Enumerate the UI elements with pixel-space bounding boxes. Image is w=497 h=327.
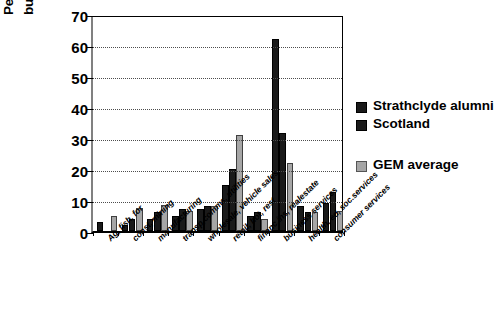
legend-label: Scotland bbox=[373, 116, 496, 132]
chart-legend: Strathclyde alumniScotlandGEM average bbox=[356, 98, 496, 175]
gridline bbox=[93, 47, 342, 48]
gridline bbox=[93, 171, 342, 172]
legend-item: Scotland bbox=[356, 116, 496, 132]
legend-label: Strathclyde alumni bbox=[373, 98, 496, 114]
legend-swatch-icon bbox=[356, 120, 367, 131]
y-axis-title-line-2: businesses bbox=[21, 0, 36, 15]
gridline bbox=[93, 109, 342, 110]
gridline bbox=[93, 78, 342, 79]
y-axis-title: Percentage of all new businesses bbox=[0, 0, 42, 245]
plot-area: 010203040506070 bbox=[60, 16, 345, 236]
y-axis-tick-labels: 010203040506070 bbox=[60, 16, 88, 236]
bar bbox=[97, 222, 104, 231]
legend-label: GEM average bbox=[373, 157, 496, 173]
y-axis-tick-label: 50 bbox=[71, 71, 88, 86]
y-axis-tick-label: 60 bbox=[71, 40, 88, 55]
y-axis-tick bbox=[87, 202, 93, 203]
y-axis-tick bbox=[87, 78, 93, 79]
y-axis-tick-label: 10 bbox=[71, 195, 88, 210]
x-axis-category-labels: Ag, fish, forconst, miningmanufacturingt… bbox=[91, 236, 391, 326]
y-axis-tick bbox=[87, 171, 93, 172]
legend-item: Strathclyde alumni bbox=[356, 98, 496, 114]
y-axis-tick-label: 70 bbox=[71, 9, 88, 24]
legend-swatch-icon bbox=[356, 161, 367, 172]
chart-figure: Percentage of all new businesses 0102030… bbox=[0, 0, 497, 327]
gridline bbox=[93, 140, 342, 141]
y-axis-tick bbox=[87, 16, 93, 17]
legend-item: GEM average bbox=[356, 157, 496, 173]
y-axis-tick bbox=[87, 109, 93, 110]
y-axis-tick-label: 40 bbox=[71, 102, 88, 117]
y-axis-title-line-1: Percentage of all new bbox=[1, 0, 16, 15]
y-axis-tick-label: 20 bbox=[71, 164, 88, 179]
y-axis-tick bbox=[87, 47, 93, 48]
legend-swatch-icon bbox=[356, 102, 367, 113]
y-axis-tick bbox=[87, 140, 93, 141]
y-axis-tick-label: 30 bbox=[71, 133, 88, 148]
